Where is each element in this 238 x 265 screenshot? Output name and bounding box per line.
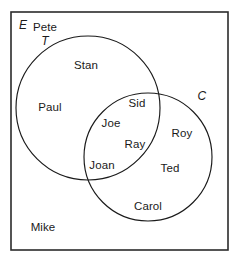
member-label: Joan	[89, 160, 114, 172]
member-label: Carol	[134, 201, 162, 213]
set-label-c: C	[198, 90, 207, 102]
member-label: Stan	[74, 60, 98, 72]
universe-label-e: E	[19, 19, 27, 31]
member-label: Roy	[172, 128, 193, 140]
member-label: Joe	[102, 118, 121, 130]
venn-diagram-figure: E T C PeteMikeStanPaulSidJoeRayJoanRoyTe…	[0, 0, 238, 265]
member-label: Ted	[161, 163, 180, 175]
set-label-t: T	[41, 35, 48, 47]
member-label: Ray	[125, 139, 146, 151]
member-label: Sid	[129, 98, 146, 110]
member-label: Mike	[31, 222, 56, 234]
member-label: Pete	[33, 22, 57, 34]
member-label: Paul	[38, 102, 61, 114]
